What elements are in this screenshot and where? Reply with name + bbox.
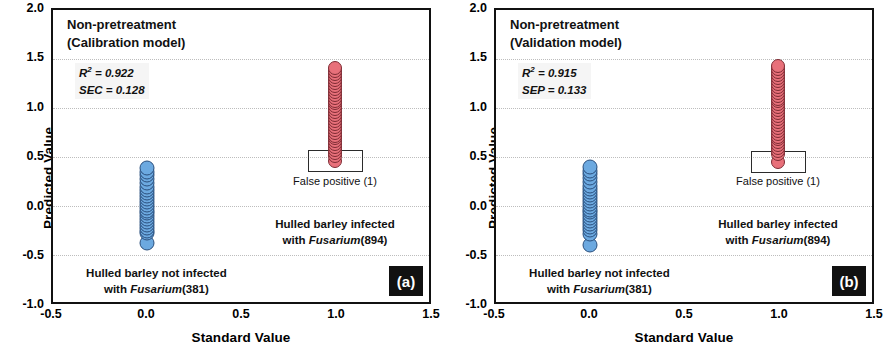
annotation-infected-b: Hulled barley infected with Fusarium(894… xyxy=(718,216,838,248)
data-point xyxy=(140,160,155,175)
plot-title-b-line2: (Validation model) xyxy=(510,34,622,52)
y-tick-a-3: 0.5 xyxy=(2,149,44,163)
data-point xyxy=(771,59,785,73)
x-tick-a-1: 0.0 xyxy=(137,307,154,321)
x-tick-b-2: 0.5 xyxy=(675,307,692,321)
x-tick-b-1: 0.0 xyxy=(580,307,597,321)
gridline-1.0-a xyxy=(53,108,429,109)
stat-sep-b: SEP = 0.133 xyxy=(522,82,587,99)
panel-b: Predicted Value Standard Value 2.0 1.5 1… xyxy=(443,0,886,356)
y-tick-b-4: 0.0 xyxy=(445,199,487,213)
data-point xyxy=(328,61,342,75)
panel-badge-b: (b) xyxy=(830,264,868,298)
annotation-not-infected-b: Hulled barley not infected with Fusarium… xyxy=(529,265,670,297)
y-tick-a-6: -1.0 xyxy=(2,297,44,311)
x-tick-a-4: 1.5 xyxy=(422,307,439,321)
stat-sec-a: SEC = 0.128 xyxy=(79,82,145,99)
x-tick-b-0: -0.5 xyxy=(483,307,505,321)
gridline-0.0-a xyxy=(53,206,429,207)
y-tick-a-5: -0.5 xyxy=(2,248,44,262)
plot-title-b-line1: Non-pretreatment xyxy=(510,16,622,34)
plot-title-a-line2: (Calibration model) xyxy=(67,34,185,52)
gridline-0.0-b xyxy=(496,206,872,207)
x-tick-a-0: -0.5 xyxy=(40,307,62,321)
y-tick-b-3: 0.5 xyxy=(445,149,487,163)
figure-two-panel-scatter: Predicted Value Standard Value 2.0 1.5 1… xyxy=(0,0,886,356)
plot-area-b: Non-pretreatment (Validation model) R2 =… xyxy=(494,8,874,304)
gridline-1.5-b xyxy=(496,59,872,60)
gridline--0.5-a xyxy=(53,255,429,256)
y-tick-a-2: 1.0 xyxy=(2,100,44,114)
x-tick-b-4: 1.5 xyxy=(865,307,882,321)
statistics-block-a: R2 = 0.922 SEC = 0.128 xyxy=(75,63,149,99)
gridline--0.5-b xyxy=(496,255,872,256)
false-positive-label-b: False positive (1) xyxy=(736,175,820,187)
x-axis-label-a: Standard Value xyxy=(51,330,431,345)
gridline-0.5-b xyxy=(496,157,872,158)
gridline-1.5-a xyxy=(53,59,429,60)
data-point xyxy=(583,159,598,174)
plot-title-b: Non-pretreatment (Validation model) xyxy=(510,16,622,51)
statistics-block-b: R2 = 0.915 SEP = 0.133 xyxy=(518,63,591,99)
x-tick-b-3: 1.0 xyxy=(770,307,787,321)
y-tick-b-6: -1.0 xyxy=(445,297,487,311)
y-tick-b-5: -0.5 xyxy=(445,248,487,262)
annotation-not-infected-a: Hulled barley not infected with Fusarium… xyxy=(86,265,227,297)
annotation-infected-a: Hulled barley infected with Fusarium(894… xyxy=(275,216,395,248)
x-tick-a-2: 0.5 xyxy=(232,307,249,321)
panel-badge-a: (a) xyxy=(387,264,425,298)
gridline-0.5-a xyxy=(53,157,429,158)
y-tick-a-0: 2.0 xyxy=(2,1,44,15)
x-axis-label-b: Standard Value xyxy=(494,330,874,345)
y-tick-a-1: 1.5 xyxy=(2,50,44,64)
gridline-1.0-b xyxy=(496,108,872,109)
plot-title-a: Non-pretreatment (Calibration model) xyxy=(67,16,185,51)
false-positive-label-a: False positive (1) xyxy=(293,175,377,187)
y-tick-b-1: 1.5 xyxy=(445,50,487,64)
y-tick-b-0: 2.0 xyxy=(445,1,487,15)
y-tick-a-4: 0.0 xyxy=(2,199,44,213)
plot-title-a-line1: Non-pretreatment xyxy=(67,16,185,34)
y-tick-b-2: 1.0 xyxy=(445,100,487,114)
panel-a: Predicted Value Standard Value 2.0 1.5 1… xyxy=(0,0,443,356)
stat-r2-b: R2 = 0.915 xyxy=(522,64,587,82)
x-tick-a-3: 1.0 xyxy=(327,307,344,321)
stat-r2-a: R2 = 0.922 xyxy=(79,64,145,82)
plot-area-a: Non-pretreatment (Calibration model) R2 … xyxy=(51,8,431,304)
